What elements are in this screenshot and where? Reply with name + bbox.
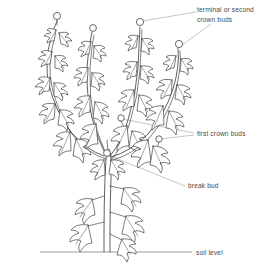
leaf: [163, 55, 176, 71]
lower-leaf-petiole-left-upper: [92, 196, 104, 200]
leaf: [70, 225, 92, 252]
branch-right-inner: [110, 18, 154, 159]
label-terminal-crown-buds-line1: terminal or second: [197, 6, 254, 13]
leaf: [180, 58, 193, 75]
leaf: [75, 199, 95, 225]
leaf: [125, 35, 138, 51]
leader-line-terminal-bud-right: [182, 24, 211, 45]
leaf: [117, 239, 136, 262]
label-terminal-crown-buds-line2: crown buds: [197, 16, 233, 23]
bud-terminal-left-inner: [90, 25, 97, 32]
leaf: [54, 83, 68, 101]
leaf: [59, 32, 72, 47]
center-shoot-stem: [107, 140, 108, 150]
label-soil-level: soil level: [196, 249, 223, 256]
leaf: [140, 66, 154, 84]
lower-leaf-petiole-right-lower: [110, 212, 126, 217]
leaf: [91, 73, 105, 91]
lower-leaf-petiole-right-upper: [110, 186, 124, 189]
diagram-labels: terminal or second crown buds first crow…: [188, 6, 254, 256]
leaf: [93, 45, 106, 62]
bud-first-crown-inner: [118, 115, 124, 121]
bud-break-center: [104, 150, 111, 157]
plant-diagram: terminal or second crown buds first crow…: [0, 0, 269, 266]
label-first-crown-buds: first crown buds: [197, 130, 246, 137]
leaf: [39, 103, 55, 124]
leaf-cluster-right-outer: [131, 55, 193, 173]
leaf: [78, 41, 91, 57]
plant-illustration: terminal or second crown buds first crow…: [0, 0, 269, 266]
leaf: [111, 126, 129, 151]
main-stem: [104, 149, 111, 252]
leaf: [121, 188, 141, 213]
leader-line-first-crown-bud-lower: [160, 135, 194, 139]
lower-stem-leaves: [70, 186, 144, 262]
lower-leaf-petiole-left-lower: [88, 222, 104, 226]
bud-terminal-right-outer: [175, 40, 182, 47]
bud-terminal-right-inner: [136, 18, 143, 25]
lower-leaf-petiole-right-bottom: [110, 234, 122, 240]
leaf-cluster-right-inner: [111, 35, 154, 155]
branch-left-inner: [74, 25, 109, 157]
label-break-bud: break bud: [188, 182, 219, 189]
leader-line-terminal-bud-center: [143, 12, 196, 21]
bud-terminal-left-outer: [53, 12, 60, 19]
leaf-cluster-left-inner: [74, 41, 109, 149]
leaf: [141, 38, 154, 55]
bud-first-crown-outer: [156, 136, 162, 142]
leaf: [55, 55, 68, 72]
leaf: [150, 146, 170, 173]
